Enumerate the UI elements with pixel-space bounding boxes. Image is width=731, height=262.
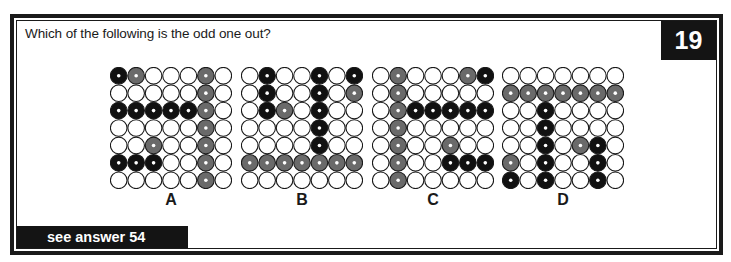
cell-center-dot [483, 109, 487, 113]
grid-cell-white [520, 67, 537, 84]
grid-cell-white [502, 67, 519, 84]
cell-center-dot [134, 74, 138, 78]
cell-center-dot [509, 178, 513, 182]
grid-cell-white [110, 137, 127, 154]
grid-cell-white [372, 85, 389, 102]
cell-center-dot [431, 109, 435, 113]
option-c-grid[interactable] [372, 67, 494, 189]
grid-cell-white [407, 67, 424, 84]
cell-center-dot [204, 161, 208, 165]
grid-cell-white [502, 120, 519, 137]
grid-cell-white [407, 85, 424, 102]
grid-cell-white [407, 137, 424, 154]
option-b-grid[interactable] [241, 67, 363, 189]
grid-cell-white [294, 172, 311, 189]
puzzle-number-badge: 19 [661, 21, 716, 60]
cell-center-dot [396, 178, 400, 182]
grid-cell-white [520, 137, 537, 154]
grid-cell-white [425, 120, 442, 137]
grid-cell-white [460, 85, 477, 102]
grid-cell-white [329, 67, 346, 84]
option-d-grid[interactable] [502, 67, 624, 189]
grid-cell-white [215, 102, 232, 119]
cell-center-dot [544, 178, 548, 182]
cell-center-dot [396, 144, 400, 148]
grid-cell-white [145, 172, 162, 189]
option-d-label: D [543, 191, 583, 209]
cell-center-dot [466, 161, 470, 165]
see-answer-link[interactable]: see answer 54 [17, 226, 188, 248]
cell-center-dot [265, 161, 269, 165]
grid-cell-white [163, 67, 180, 84]
cell-center-dot [526, 91, 530, 95]
cell-center-dot [466, 74, 470, 78]
cell-center-dot [509, 91, 513, 95]
cell-center-dot [352, 74, 356, 78]
grid-cell-white [425, 67, 442, 84]
grid-cell-white [590, 102, 607, 119]
cell-center-dot [169, 109, 173, 113]
cell-center-dot [396, 126, 400, 130]
cell-center-dot [466, 109, 470, 113]
cell-center-dot [283, 109, 287, 113]
grid-cell-white [477, 120, 494, 137]
grid-cell-white [425, 137, 442, 154]
grid-cell-white [128, 120, 145, 137]
grid-cell-white [259, 137, 276, 154]
grid-cell-white [241, 172, 258, 189]
cell-center-dot [596, 178, 600, 182]
grid-cell-white [329, 85, 346, 102]
grid-cell-white [110, 120, 127, 137]
option-a-grid[interactable] [110, 67, 232, 189]
cell-center-dot [483, 74, 487, 78]
grid-cell-white [145, 67, 162, 84]
cell-center-dot [396, 91, 400, 95]
grid-cell-white [145, 120, 162, 137]
cell-center-dot [152, 109, 156, 113]
grid-cell-white [477, 172, 494, 189]
grid-cell-white [276, 67, 293, 84]
grid-cell-white [215, 120, 232, 137]
grid-cell-white [259, 120, 276, 137]
cell-center-dot [265, 91, 269, 95]
grid-cell-white [372, 102, 389, 119]
grid-cell-white [215, 172, 232, 189]
grid-cell-white [607, 67, 624, 84]
cell-center-dot [283, 161, 287, 165]
grid-cell-white [572, 67, 589, 84]
cell-center-dot [544, 109, 548, 113]
cell-center-dot [117, 74, 121, 78]
grid-cell-white [276, 172, 293, 189]
cell-center-dot [204, 109, 208, 113]
grid-cell-white [180, 120, 197, 137]
cell-center-dot [544, 144, 548, 148]
cell-center-dot [152, 161, 156, 165]
cell-center-dot [134, 109, 138, 113]
option-b-label: B [282, 191, 322, 209]
grid-cell-white [555, 172, 572, 189]
cell-center-dot [318, 74, 322, 78]
cell-center-dot [449, 161, 453, 165]
grid-cell-white [215, 155, 232, 172]
cell-center-dot [544, 161, 548, 165]
grid-cell-white [372, 67, 389, 84]
grid-cell-white [590, 120, 607, 137]
cell-center-dot [204, 74, 208, 78]
grid-cell-white [241, 102, 258, 119]
grid-cell-white [555, 155, 572, 172]
grid-cell-white [311, 172, 328, 189]
option-a-label: A [151, 191, 191, 209]
question-text: Which of the following is the odd one ou… [25, 26, 271, 41]
cell-center-dot [318, 161, 322, 165]
grid-cell-white [215, 85, 232, 102]
cell-center-dot [596, 91, 600, 95]
grid-cell-white [346, 120, 363, 137]
grid-cell-white [372, 137, 389, 154]
grid-cell-white [346, 102, 363, 119]
grid-cell-white [241, 120, 258, 137]
grid-cell-white [163, 155, 180, 172]
grid-cell-white [407, 172, 424, 189]
cell-center-dot [204, 126, 208, 130]
grid-cell-white [372, 155, 389, 172]
grid-cell-white [442, 67, 459, 84]
